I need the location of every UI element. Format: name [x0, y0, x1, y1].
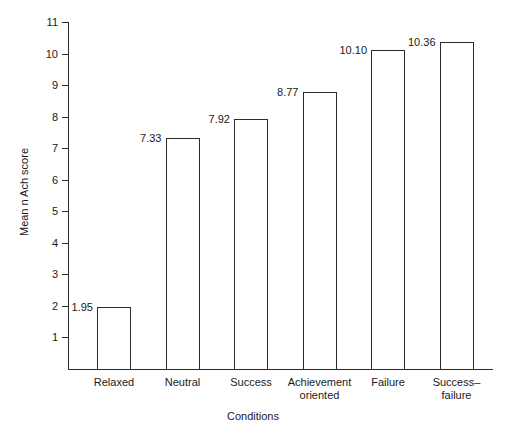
- plot-area: 1.95Relaxed7.33Neutral7.92Success8.77Ach…: [0, 0, 506, 438]
- bar-value-label: 7.33: [118, 133, 162, 144]
- bar[interactable]: [97, 307, 131, 370]
- bar-chart: Mean n Ach score Conditions 123456789101…: [0, 0, 506, 438]
- bar-value-label: 10.10: [323, 45, 367, 56]
- bar-value-label: 10.36: [392, 37, 436, 48]
- bar-value-label: 8.77: [255, 87, 299, 98]
- bar-value-label: 7.92: [186, 114, 230, 125]
- bar[interactable]: [166, 138, 200, 370]
- bar[interactable]: [440, 42, 474, 370]
- bar[interactable]: [371, 50, 405, 370]
- bar-value-label: 1.95: [49, 302, 93, 313]
- bar[interactable]: [303, 92, 337, 370]
- x-axis-category-label: Success– failure: [409, 376, 505, 402]
- bar[interactable]: [234, 119, 268, 370]
